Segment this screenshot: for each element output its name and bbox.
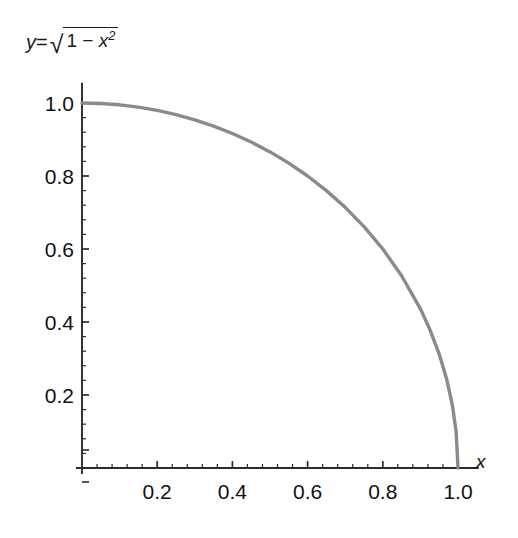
ticks-group — [82, 103, 458, 482]
y-axis-tick-label: 0.2 — [18, 385, 74, 406]
x-axis-tick-label: 0.4 — [218, 481, 247, 502]
data-series-curve — [82, 103, 458, 468]
axes-group — [76, 83, 479, 474]
chart-figure: y=√1 − x2 0.20.40.60.81.0 0.20.40.60.81.… — [0, 0, 518, 538]
x-axis-tick-label: 1.0 — [443, 481, 472, 502]
x-axis-tick-label: 0.6 — [293, 481, 322, 502]
x-axis-label: x — [476, 452, 486, 471]
x-axis-tick-label: 0.8 — [368, 481, 397, 502]
y-axis-tick-label: 0.4 — [18, 312, 74, 333]
y-axis-tick-label: 0.6 — [18, 239, 74, 260]
x-axis-tick-label: 0.2 — [143, 481, 172, 502]
y-axis-tick-label: 1.0 — [18, 93, 74, 114]
plot-canvas — [0, 0, 518, 538]
y-axis-tick-label: 0.8 — [18, 166, 74, 187]
